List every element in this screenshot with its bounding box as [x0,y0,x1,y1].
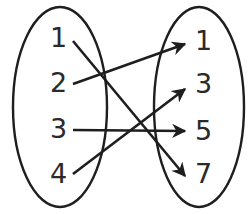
arrow-1-to-7 [73,41,185,176]
arrow-2-to-1 [73,44,185,84]
mapping-diagram: 1 2 3 4 1 3 5 7 [0,0,252,214]
domain-element-1: 1 [50,22,67,53]
range-element-7: 7 [195,158,212,189]
range-element-3: 3 [195,68,212,99]
domain-element-3: 3 [50,113,67,144]
domain-element-2: 2 [50,67,67,98]
domain-element-4: 4 [50,158,67,189]
range-element-5: 5 [195,115,212,146]
range-element-1: 1 [195,25,212,56]
